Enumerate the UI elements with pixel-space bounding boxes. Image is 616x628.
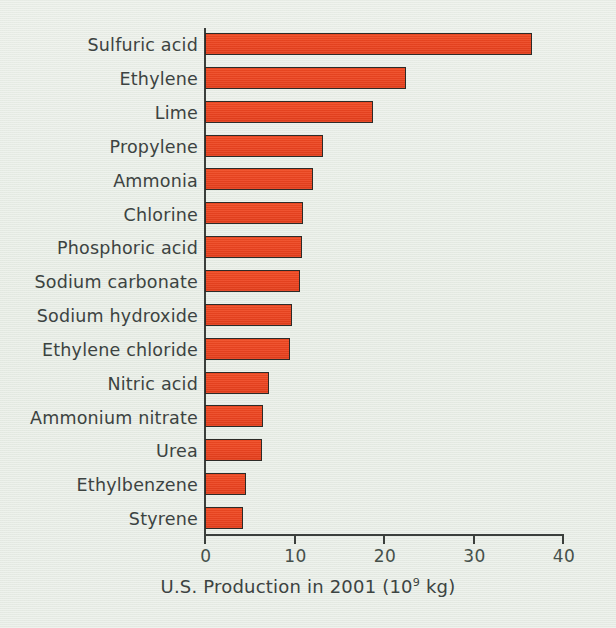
bar-category-label: Styrene (129, 509, 198, 529)
bar-category-label: Propylene (109, 137, 198, 157)
bar-row: Sodium carbonate (0, 265, 616, 300)
bar-row: Lime (0, 96, 616, 131)
bar-row: Ethylbenzene (0, 468, 616, 503)
x-axis-tick-label: 0 (176, 546, 236, 566)
bar-row: Nitric acid (0, 367, 616, 402)
bar-category-label: Ethylene chloride (42, 340, 198, 360)
bar (205, 202, 303, 224)
bar (205, 168, 313, 190)
bar (205, 372, 269, 394)
bar (205, 101, 373, 123)
bar-row: Phosphoric acid (0, 231, 616, 266)
x-axis-title-exponent: 9 (413, 576, 420, 589)
x-axis-tick (294, 536, 296, 544)
bar-row: Sulfuric acid (0, 28, 616, 63)
bar (205, 473, 246, 495)
bar (205, 236, 302, 258)
bar-category-label: Ethylbenzene (77, 475, 198, 495)
bar (205, 67, 406, 89)
x-axis-title: U.S. Production in 2001 (109 kg) (0, 576, 616, 597)
bar (205, 439, 262, 461)
x-axis-tick-label: 20 (355, 546, 415, 566)
bar-row: Ammonia (0, 163, 616, 198)
bar-row: Propylene (0, 130, 616, 165)
bar-category-label: Sulfuric acid (88, 35, 198, 55)
bar (205, 135, 323, 157)
x-axis-tick (562, 536, 564, 544)
bar-category-label: Sodium carbonate (35, 272, 199, 292)
bar-row: Ethylene chloride (0, 333, 616, 368)
x-axis-tick (383, 536, 385, 544)
bar-chart: Sulfuric acidEthyleneLimePropyleneAmmoni… (0, 0, 616, 628)
x-axis-tick (473, 536, 475, 544)
bar (205, 304, 292, 326)
bar-row: Urea (0, 434, 616, 469)
bar-category-label: Phosphoric acid (57, 238, 198, 258)
x-axis-tick-label: 30 (445, 546, 505, 566)
bar-category-label: Lime (155, 103, 198, 123)
x-axis-title-suffix: kg) (420, 576, 455, 597)
bar-category-label: Ammonia (113, 171, 198, 191)
bar (205, 270, 300, 292)
x-axis-title-prefix: U.S. Production in 2001 (10 (161, 576, 413, 597)
bar-row: Sodium hydroxide (0, 299, 616, 334)
x-axis-tick-label: 10 (266, 546, 326, 566)
bar-category-label: Ammonium nitrate (30, 408, 198, 428)
bar-category-label: Chlorine (124, 205, 198, 225)
bar-category-label: Sodium hydroxide (37, 306, 198, 326)
bar (205, 338, 290, 360)
bar-row: Ethylene (0, 62, 616, 97)
bar-category-label: Urea (156, 441, 198, 461)
bar-row: Ammonium nitrate (0, 400, 616, 435)
bar-row: Styrene (0, 502, 616, 537)
plot-area: Sulfuric acidEthyleneLimePropyleneAmmoni… (0, 0, 616, 628)
bar (205, 507, 243, 529)
x-axis-tick-label: 40 (534, 546, 594, 566)
bar (205, 33, 532, 55)
bar-row: Chlorine (0, 197, 616, 232)
bar-category-label: Nitric acid (107, 374, 198, 394)
bar (205, 405, 263, 427)
x-axis-tick (204, 536, 206, 544)
bar-category-label: Ethylene (120, 69, 198, 89)
